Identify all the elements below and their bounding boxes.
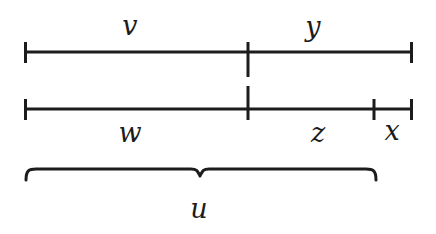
segment-label-y: y [305,13,320,40]
upper-bar-group [24,42,413,63]
segment-label-w: w [118,119,141,146]
lower-brace-group [26,169,376,180]
diagram-canvas [0,0,436,234]
segment-label-x: x [384,117,399,144]
lower-bar-group [24,99,413,120]
segment-label-v: v [122,12,137,39]
segment-label-z: z [311,119,325,146]
brace-label-u: u [190,195,207,222]
lower-brace-path [26,169,376,180]
interval-diagram: v y w z x u [0,0,436,234]
